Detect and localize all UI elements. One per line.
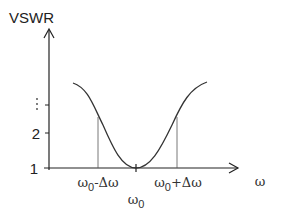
x-axis-label: ω (255, 174, 266, 189)
x-label-center-frequency: ω0 (128, 192, 145, 210)
x-label-upper-band-edge: ω0+Δω (154, 175, 202, 193)
x-label-lower-band-edge: ω0-Δω (77, 175, 118, 193)
y-tick-label-1: 1 (30, 160, 38, 177)
y-tick-label-ellipsis (36, 98, 38, 110)
vswr-curve (73, 82, 207, 168)
y-axis-label: VSWR (9, 9, 54, 26)
y-tick-label-2: 2 (32, 125, 40, 142)
vswr-diagram: 1 2 VSWR ω0-Δω ω0+Δω ω0 ω (0, 0, 281, 224)
